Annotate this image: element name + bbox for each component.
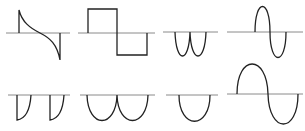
waveform-diagram [0,0,305,131]
panel-p1 [6,10,70,60]
waveform [19,10,60,60]
waveform [17,95,64,120]
panel-p7 [166,95,218,121]
panel-p5 [8,95,70,120]
waveform [87,95,148,121]
panel-p3 [163,32,218,56]
waveform [88,9,147,55]
panel-p4 [227,7,303,58]
waveform [179,95,210,121]
panel-p2 [78,9,155,55]
waveform [175,32,206,56]
panel-p8 [227,64,303,124]
panel-p6 [80,95,155,121]
